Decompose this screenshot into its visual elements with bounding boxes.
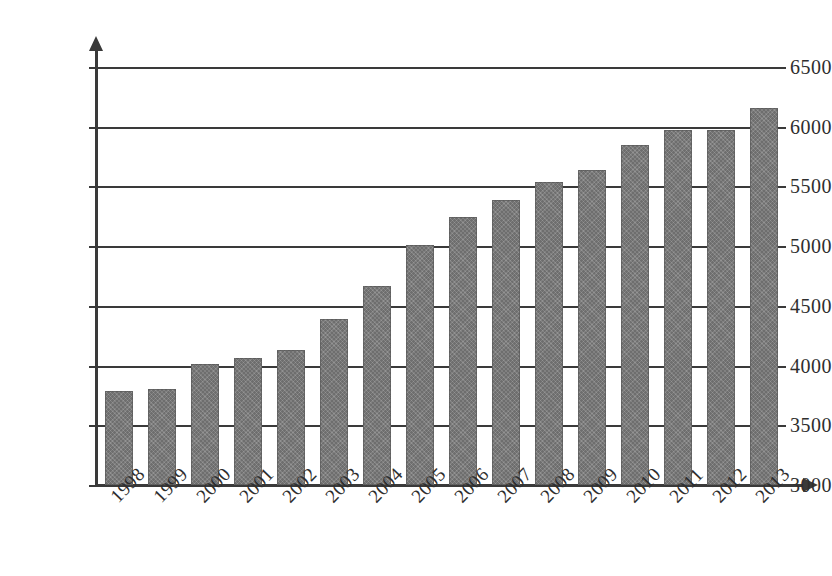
plot-area	[97, 67, 786, 485]
y-axis-arrow-icon	[89, 36, 103, 51]
bar[interactable]	[234, 358, 262, 485]
bar[interactable]	[449, 217, 477, 485]
bar[interactable]	[578, 170, 606, 485]
gridline	[97, 127, 786, 129]
bar[interactable]	[406, 245, 434, 485]
bar-chart: 30003500400045005000550060006500 1998199…	[0, 0, 832, 576]
gridline	[97, 67, 786, 69]
bar[interactable]	[363, 286, 391, 485]
y-axis-tick-mark	[89, 485, 98, 487]
bar[interactable]	[320, 319, 348, 485]
bar[interactable]	[277, 350, 305, 485]
bar[interactable]	[535, 182, 563, 485]
bar[interactable]	[621, 145, 649, 485]
bar[interactable]	[707, 130, 735, 485]
bar[interactable]	[664, 130, 692, 485]
bar[interactable]	[492, 200, 520, 485]
bar[interactable]	[750, 108, 778, 485]
